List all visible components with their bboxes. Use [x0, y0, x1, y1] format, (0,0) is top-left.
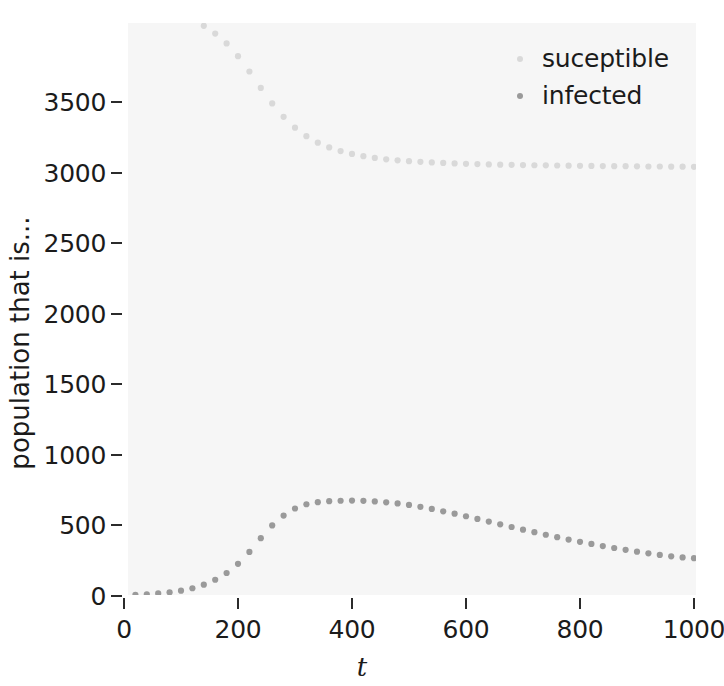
data-point: [212, 577, 218, 583]
data-point: [406, 502, 412, 508]
x-tick-label: 1000: [663, 615, 724, 644]
y-tick-label: 3500: [44, 88, 106, 117]
data-point: [577, 539, 583, 545]
data-point: [235, 561, 241, 567]
y-tick-mark: [111, 101, 122, 103]
data-point: [315, 140, 321, 146]
data-point: [281, 114, 287, 120]
data-point: [554, 534, 560, 540]
chart-figure: 0500100015002000250030003500 population …: [0, 0, 724, 686]
data-point: [417, 159, 423, 165]
data-point: [224, 570, 230, 576]
x-tick-label: 800: [557, 615, 604, 644]
data-point: [554, 162, 560, 168]
data-point: [486, 161, 492, 167]
data-point: [417, 504, 423, 510]
data-point: [303, 133, 309, 139]
x-tick-mark: [351, 598, 353, 609]
data-point: [531, 162, 537, 168]
data-point: [281, 512, 287, 518]
data-point: [611, 163, 617, 169]
x-tick-mark: [123, 598, 125, 609]
x-axis: t 02004006008001000: [0, 595, 724, 686]
data-point: [452, 160, 458, 166]
data-point: [486, 519, 492, 525]
data-point: [338, 148, 344, 154]
data-point: [645, 550, 651, 556]
chart-legend: suceptibleinfected: [498, 40, 669, 114]
data-point: [600, 543, 606, 549]
y-tick-mark: [111, 454, 122, 456]
data-point: [395, 500, 401, 506]
data-point: [383, 156, 389, 162]
y-tick-mark: [111, 172, 122, 174]
x-tick-label: 600: [443, 615, 490, 644]
x-tick-mark: [465, 598, 467, 609]
data-point: [349, 151, 355, 157]
data-point: [463, 513, 469, 519]
data-point: [474, 161, 480, 167]
data-point: [588, 163, 594, 169]
y-tick-label: 2000: [44, 299, 106, 328]
data-point: [520, 527, 526, 533]
data-point: [657, 163, 663, 169]
x-tick-label: 400: [329, 615, 376, 644]
data-point: [668, 164, 674, 170]
y-tick-mark: [111, 242, 122, 244]
data-point: [292, 125, 298, 131]
data-point: [680, 554, 686, 560]
y-tick-label: 1000: [44, 440, 106, 469]
data-point: [360, 498, 366, 504]
y-tick-label: 500: [59, 511, 106, 540]
x-tick-label: 0: [116, 615, 132, 644]
data-point: [600, 163, 606, 169]
data-point: [634, 163, 640, 169]
data-point: [429, 506, 435, 512]
data-point: [497, 521, 503, 527]
data-point: [668, 553, 674, 559]
data-point: [224, 40, 230, 46]
data-point: [440, 508, 446, 514]
data-point: [691, 164, 696, 170]
y-tick-label: 2500: [44, 229, 106, 258]
data-point: [201, 582, 207, 588]
data-point: [372, 498, 378, 504]
legend-dot: [517, 93, 523, 99]
data-point: [611, 545, 617, 551]
data-point: [497, 162, 503, 168]
y-tick-label: 1500: [44, 370, 106, 399]
data-point: [349, 497, 355, 503]
data-point: [258, 535, 264, 541]
legend-dot: [517, 56, 523, 62]
data-point: [326, 498, 332, 504]
legend-marker-icon: [498, 93, 542, 99]
legend-marker-icon: [498, 56, 542, 62]
data-point: [235, 53, 241, 59]
legend-label: suceptible: [542, 44, 669, 73]
data-point: [406, 158, 412, 164]
legend-label: infected: [542, 81, 642, 110]
data-point: [303, 501, 309, 507]
data-point: [566, 536, 572, 542]
data-point: [372, 155, 378, 161]
series-infected: [128, 497, 696, 595]
data-point: [246, 68, 252, 74]
y-tick-mark: [111, 383, 122, 385]
data-point: [577, 163, 583, 169]
legend-item-suceptible: suceptible: [498, 40, 669, 77]
x-tick-mark: [237, 598, 239, 609]
data-point: [383, 499, 389, 505]
data-point: [269, 100, 275, 106]
data-point: [657, 552, 663, 558]
data-point: [189, 585, 195, 591]
y-tick-mark: [111, 524, 122, 526]
legend-item-infected: infected: [498, 77, 669, 114]
data-point: [691, 555, 696, 561]
data-point: [246, 549, 252, 555]
data-point: [531, 529, 537, 535]
x-tick-mark: [579, 598, 581, 609]
data-point: [326, 144, 332, 150]
data-point: [360, 153, 366, 159]
data-point: [463, 161, 469, 167]
data-point: [509, 524, 515, 530]
